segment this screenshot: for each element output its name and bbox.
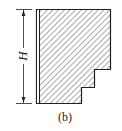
dimension-label: H: [15, 51, 30, 62]
wall-gap: [37, 10, 39, 103]
figure-caption: (b): [58, 110, 72, 124]
diagram-figure: H (b): [0, 0, 122, 131]
dimension-h: H: [15, 10, 32, 104]
arrow-up-icon: [22, 10, 26, 16]
hatched-section: [37, 10, 111, 104]
arrow-down-icon: [22, 97, 26, 103]
